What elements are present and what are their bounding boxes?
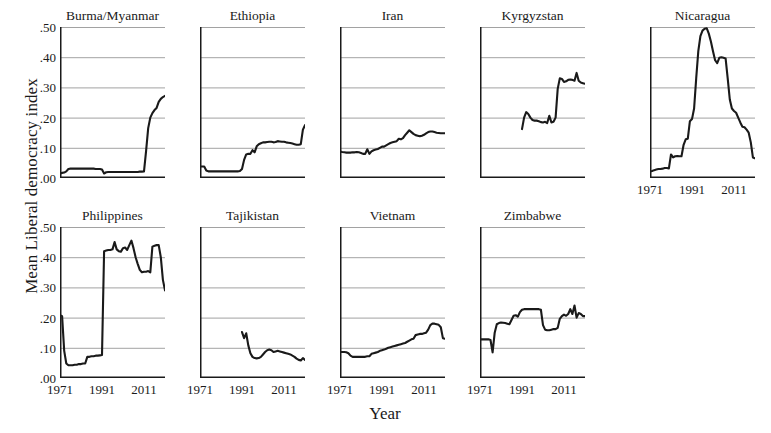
- x-axis-label: Year: [335, 404, 435, 424]
- y-tick-label: .40: [40, 251, 56, 264]
- panel-title: Nicaragua: [650, 8, 755, 24]
- x-tick-label: 1971: [327, 383, 353, 396]
- plot-area: [480, 227, 585, 378]
- plot-area: [60, 227, 165, 378]
- x-tick-label: 2011: [551, 383, 577, 396]
- x-tick-label: 1991: [509, 383, 535, 396]
- y-tick-label: .10: [40, 341, 56, 354]
- panel-nicaragua: Nicaragua197119912011: [650, 27, 755, 178]
- plot-area: [650, 27, 755, 178]
- x-tick-label: 2011: [131, 383, 157, 396]
- series-line: [480, 306, 585, 353]
- y-tick-label: .00: [40, 172, 56, 185]
- panel-title: Vietnam: [340, 208, 445, 224]
- panel-title: Philippines: [60, 208, 165, 224]
- panel-tajikistan: Tajikistan197119912011: [200, 227, 305, 378]
- y-tick-label: .20: [40, 311, 56, 324]
- panel-title: Ethiopia: [200, 8, 305, 24]
- panel-kyrgyzstan: Kyrgyzstan: [480, 27, 585, 178]
- series-line: [340, 130, 445, 154]
- small-multiples-figure: Mean Liberal democracy index Year Burma/…: [0, 0, 771, 433]
- plot-area: [340, 227, 445, 378]
- panel-title: Burma/Myanmar: [60, 8, 165, 24]
- x-tick-label: 1971: [187, 383, 213, 396]
- x-tick-label: 1991: [89, 383, 115, 396]
- panel-title: Iran: [340, 8, 445, 24]
- plot-area: [60, 27, 165, 178]
- x-tick-label: 2011: [411, 383, 437, 396]
- panel-zimbabwe: Zimbabwe197119912011: [480, 227, 585, 378]
- x-tick-label: 1971: [47, 383, 73, 396]
- series-line: [522, 73, 585, 129]
- x-tick-label: 1971: [637, 183, 663, 196]
- panel-iran: Iran: [340, 27, 445, 178]
- series-line: [650, 28, 755, 171]
- y-tick-label: .10: [40, 141, 56, 154]
- y-tick-label: .50: [40, 221, 56, 234]
- plot-area: [340, 27, 445, 178]
- series-line: [242, 332, 305, 360]
- panel-title: Tajikistan: [200, 208, 305, 224]
- series-line: [60, 96, 165, 174]
- plot-area: [200, 227, 305, 378]
- x-tick-label: 2011: [271, 383, 297, 396]
- y-tick-label: .30: [40, 281, 56, 294]
- x-tick-label: 1991: [369, 383, 395, 396]
- x-tick-label: 2011: [721, 183, 747, 196]
- y-tick-label: .20: [40, 111, 56, 124]
- x-tick-label: 1991: [679, 183, 705, 196]
- x-tick-label: 1991: [229, 383, 255, 396]
- series-line: [340, 324, 445, 357]
- series-line: [60, 241, 165, 366]
- plot-area: [200, 27, 305, 178]
- panel-vietnam: Vietnam197119912011: [340, 227, 445, 378]
- panel-ethiopia: Ethiopia: [200, 27, 305, 178]
- y-tick-label: .30: [40, 81, 56, 94]
- panel-title: Zimbabwe: [480, 208, 585, 224]
- x-tick-label: 1971: [467, 383, 493, 396]
- plot-area: [480, 27, 585, 178]
- panel-title: Kyrgyzstan: [480, 8, 585, 24]
- panel-philippines: Philippines.00.10.20.30.40.5019711991201…: [60, 227, 165, 378]
- panel-burma-myanmar: Burma/Myanmar.00.10.20.30.40.50: [60, 27, 165, 178]
- y-tick-label: .40: [40, 51, 56, 64]
- y-tick-label: .50: [40, 21, 56, 34]
